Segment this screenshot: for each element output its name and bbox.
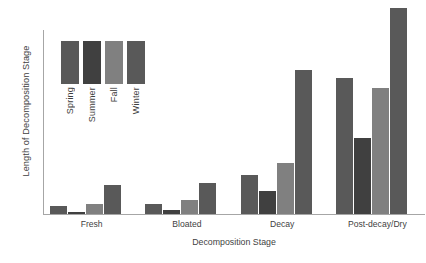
bar-winter-decay xyxy=(295,70,312,214)
bar-summer-bloated xyxy=(163,210,180,214)
legend-item-fall[interactable]: Fall xyxy=(105,41,123,102)
bar-spring-bloated xyxy=(145,204,162,214)
legend-swatch-spring xyxy=(61,41,79,84)
bar-summer-fresh xyxy=(68,212,85,214)
x-tick-label-decay: Decay xyxy=(235,219,330,229)
y-axis-title: Length of Decomposition Stage xyxy=(21,11,31,211)
legend-swatch-summer xyxy=(83,41,101,84)
legend-swatch-winter xyxy=(127,41,145,84)
legend-item-spring[interactable]: Spring xyxy=(61,41,79,114)
bar-winter-bloated xyxy=(199,183,216,214)
legend-label-summer: Summer xyxy=(87,87,97,122)
legend-item-summer[interactable]: Summer xyxy=(83,41,101,122)
x-axis-title: Decomposition Stage xyxy=(43,237,425,247)
bar-group-bloated xyxy=(145,8,217,214)
legend-swatch-fall xyxy=(105,41,123,84)
bar-spring-fresh xyxy=(50,206,67,214)
bar-winter-post-decay-dry xyxy=(390,8,407,214)
x-tick-label-bloated: Bloated xyxy=(139,219,234,229)
bar-fall-post-decay-dry xyxy=(372,88,389,214)
bar-group-decay xyxy=(241,8,313,214)
chart-legend: SpringSummerFallWinter xyxy=(61,41,149,122)
bar-chart: Length of Decomposition Stage SpringSumm… xyxy=(0,0,426,263)
bar-fall-fresh xyxy=(86,204,103,214)
legend-item-winter[interactable]: Winter xyxy=(127,41,145,114)
bar-spring-post-decay-dry xyxy=(336,78,353,214)
x-axis-line xyxy=(43,214,425,215)
bar-fall-bloated xyxy=(181,200,198,214)
legend-label-spring: Spring xyxy=(65,87,75,114)
legend-label-fall: Fall xyxy=(109,87,119,102)
bar-spring-decay xyxy=(241,175,258,214)
bar-fall-decay xyxy=(277,163,294,215)
legend-label-winter: Winter xyxy=(131,87,141,114)
bar-summer-decay xyxy=(259,191,276,214)
bar-winter-fresh xyxy=(104,185,121,214)
x-tick-label-post-decay-dry: Post-decay/Dry xyxy=(330,219,425,229)
bar-summer-post-decay-dry xyxy=(354,138,371,214)
bar-group-post-decay-dry xyxy=(336,8,408,214)
x-tick-label-fresh: Fresh xyxy=(44,219,139,229)
